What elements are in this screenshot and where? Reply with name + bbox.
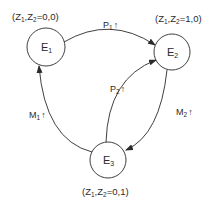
transition-label-m1: M1↑	[29, 110, 46, 121]
edge-e3-to-e2	[106, 60, 156, 142]
state-e3: E3	[90, 142, 126, 178]
transition-label-m2: M2↑	[176, 107, 193, 118]
edge-e2-to-e3	[126, 70, 167, 150]
transition-label-p2: P2↑	[110, 84, 125, 95]
state-e2: E2	[154, 34, 190, 70]
condition-label-e2: (Z1,Z2=1,0)	[155, 13, 202, 25]
edge-e1-to-e2	[64, 29, 155, 45]
transition-label-p1: P1↑	[103, 20, 118, 31]
state-diagram: E1 E2 E3 (Z1,Z2=0,0) (Z1,Z2=1,0) (Z1,Z2=…	[0, 0, 216, 207]
condition-label-e3: (Z1,Z2=0,1)	[82, 186, 129, 198]
state-e1: E1	[27, 28, 65, 66]
edge-e3-to-e1	[39, 66, 92, 152]
condition-label-e1: (Z1,Z2=0,0)	[12, 11, 59, 23]
